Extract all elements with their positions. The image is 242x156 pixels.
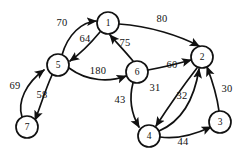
graph-node-7[interactable]: 7 — [16, 116, 38, 138]
graph-canvas: 70 64 75 80 180 60 69 58 43 31 32 30 44 … — [0, 0, 242, 156]
edge-weight-label: 75 — [119, 37, 130, 48]
node-label: 2 — [200, 52, 205, 62]
nodes-layer: 1 2 3 4 5 6 7 — [16, 12, 231, 147]
edge-6-to-4 — [131, 83, 139, 127]
graph-diagram: 70 64 75 80 180 60 69 58 43 31 32 30 44 … — [0, 0, 242, 156]
graph-node-4[interactable]: 4 — [138, 125, 160, 147]
edge-weight-label: 30 — [221, 83, 232, 94]
graph-node-1[interactable]: 1 — [97, 12, 119, 34]
edge-weight-label: 32 — [176, 90, 187, 101]
edge-weight-label: 180 — [90, 65, 107, 76]
node-label: 5 — [56, 60, 61, 70]
edge-labels-layer: 70 64 75 80 180 60 69 58 43 31 32 30 44 — [9, 13, 232, 147]
node-label: 4 — [147, 131, 152, 141]
node-label: 6 — [135, 67, 140, 77]
edge-weight-label: 70 — [56, 17, 67, 28]
edge-weight-label: 43 — [114, 94, 125, 105]
edge-weight-label: 31 — [149, 82, 160, 93]
graph-node-3[interactable]: 3 — [209, 111, 231, 133]
edge-weight-label: 80 — [156, 13, 167, 24]
node-label: 3 — [218, 117, 223, 127]
edge-weight-label: 69 — [9, 80, 20, 91]
graph-node-6[interactable]: 6 — [126, 61, 148, 83]
edge-1-to-2 — [119, 24, 199, 46]
edge-weight-label: 44 — [177, 136, 189, 147]
graph-node-2[interactable]: 2 — [191, 46, 213, 68]
edge-3-to-2 — [207, 67, 219, 111]
graph-node-5[interactable]: 5 — [47, 54, 69, 76]
node-label: 1 — [106, 18, 111, 28]
node-label: 7 — [25, 122, 30, 132]
edge-weight-label: 58 — [36, 89, 47, 100]
edge-weight-label: 60 — [166, 59, 177, 70]
edge-weight-label: 64 — [79, 33, 91, 44]
